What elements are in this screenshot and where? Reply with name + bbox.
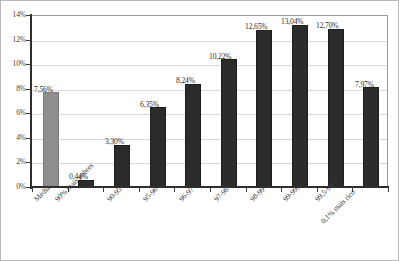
bar-value-label: 3,30% xyxy=(105,137,124,146)
y-tick-mark xyxy=(26,15,31,16)
x-tick-mark xyxy=(32,187,33,192)
y-axis-tick-labels: 14% 12% 10% 8% 6% 4% 2% 0% xyxy=(1,1,26,261)
bar-value-label: 7,56% xyxy=(34,85,53,94)
bar-media xyxy=(43,92,59,187)
bar-97-98 xyxy=(221,59,237,187)
plot-area: 7,56% 0,44% 3,30% 6,35% 8,24% 10,22% 12,… xyxy=(32,15,388,187)
chart-screenshot: 7,56% 0,44% 3,30% 6,35% 8,24% 10,22% 12,… xyxy=(0,0,399,261)
x-tick-mark xyxy=(174,187,175,192)
y-tick-label: 0% xyxy=(2,183,26,191)
bar-value-label: 7,97% xyxy=(355,80,374,89)
y-tick-label: 6% xyxy=(2,109,26,117)
bar-value-label: 8,24% xyxy=(176,76,195,85)
y-tick-label: 14% xyxy=(2,11,26,19)
bar-90-95 xyxy=(114,145,130,188)
y-tick-mark xyxy=(26,138,31,139)
y-tick-mark xyxy=(26,113,31,114)
bar-value-label: 13,04% xyxy=(281,17,304,26)
bar-96-97 xyxy=(185,84,201,187)
y-tick-mark xyxy=(26,64,31,65)
x-tick-mark xyxy=(246,187,247,192)
x-tick-mark xyxy=(281,187,282,192)
y-tick-mark xyxy=(26,187,31,188)
bar-value-label: 12,65% xyxy=(245,22,268,31)
bar-value-label: 10,22% xyxy=(209,52,232,61)
y-tick-mark xyxy=(26,40,31,41)
bar-95-96 xyxy=(150,107,166,187)
y-tick-label: 8% xyxy=(2,85,26,93)
x-tick-mark xyxy=(210,187,211,192)
x-tick-mark xyxy=(103,187,104,192)
y-tick-label: 10% xyxy=(2,60,26,68)
x-tick-mark xyxy=(139,187,140,192)
bar-0-1-mais-rico xyxy=(363,87,379,187)
y-tick-mark xyxy=(26,162,31,163)
y-tick-label: 2% xyxy=(2,158,26,166)
bar-99-5-99-9 xyxy=(328,29,344,187)
bar-98-99 xyxy=(256,30,272,187)
bar-99-99-5 xyxy=(292,25,308,187)
bar-value-label: 6,35% xyxy=(140,100,159,109)
x-tick-mark xyxy=(388,187,389,192)
y-tick-mark xyxy=(26,89,31,90)
bar-value-label: 12,70% xyxy=(316,21,339,30)
y-tick-label: 4% xyxy=(2,134,26,142)
y-tick-label: 12% xyxy=(2,36,26,44)
